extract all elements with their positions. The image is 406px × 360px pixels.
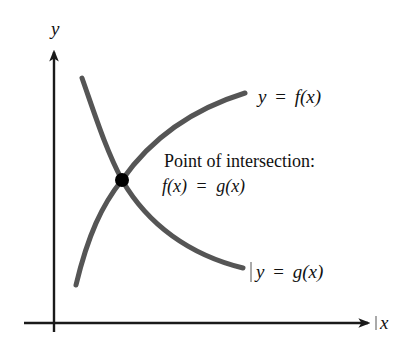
intersection-point bbox=[115, 173, 129, 187]
intersection-eq-right: g(x) bbox=[216, 176, 245, 196]
curve-f-label-eq: = bbox=[275, 86, 286, 107]
y-axis-label: y bbox=[51, 19, 59, 38]
curve-f-label: y = f(x) bbox=[258, 87, 321, 106]
intersection-eq-sign: = bbox=[196, 176, 206, 196]
curve-f-label-func: f(x) bbox=[295, 86, 321, 107]
intersection-title: Point of intersection: bbox=[164, 152, 315, 170]
curve-g-label-var: y bbox=[256, 261, 264, 282]
x-axis-label: x bbox=[380, 313, 388, 332]
curve-g-label: y = g(x) bbox=[256, 262, 323, 281]
curve-g-label-func: g(x) bbox=[293, 261, 324, 282]
intersection-equation: f(x) = g(x) bbox=[162, 177, 245, 195]
curve-g-label-eq: = bbox=[273, 261, 284, 282]
intersection-eq-left: f(x) bbox=[162, 176, 187, 196]
curve-g bbox=[82, 78, 243, 268]
curve-f-label-var: y bbox=[258, 86, 266, 107]
